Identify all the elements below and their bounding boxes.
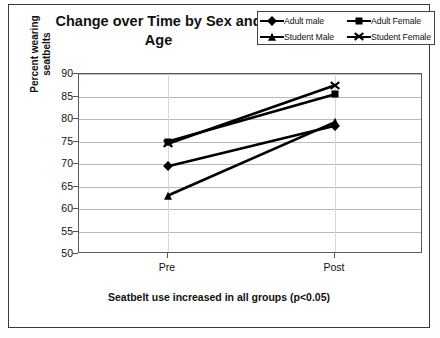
triangle-marker-icon: [164, 191, 172, 199]
legend-label-student-male: Student Male: [284, 32, 334, 42]
y-axis-tick-label: 55: [51, 225, 73, 237]
legend-row-1: Adult male Adult Female: [260, 13, 434, 29]
y-axis-tick-label: 60: [51, 202, 73, 214]
legend-label-adult-female: Adult Female: [371, 16, 421, 26]
chart-caption-text: Seatbelt use increased in all groups (p<…: [108, 291, 330, 303]
legend-item-adult-male: Adult male: [260, 13, 347, 29]
triangle-marker-icon: [260, 30, 284, 44]
y-axis-tick-label: 50: [51, 247, 73, 259]
chart-title-text: Change over Time by Sex and Age: [55, 13, 261, 48]
y-axis-tick-label: 80: [51, 112, 73, 124]
series-lines: [79, 74, 423, 254]
triangle-marker-icon: [331, 118, 339, 126]
x-axis-tick: [334, 253, 335, 258]
legend-label-adult-male: Adult male: [284, 16, 324, 26]
legend-item-student-male: Student Male: [260, 29, 347, 45]
x-marker-icon: [347, 30, 371, 44]
x-axis-tick: [167, 253, 168, 258]
series-line: [168, 85, 335, 144]
chart-caption: Seatbelt use increased in all groups (p<…: [9, 291, 429, 303]
legend-item-student-female: Student Female: [347, 29, 434, 45]
y-axis-tick-label: 65: [51, 180, 73, 192]
square-marker-icon: [347, 14, 371, 28]
x-axis-category-label: Pre: [159, 261, 175, 273]
y-axis-title: Percent wearing seatbelts: [29, 0, 53, 109]
chart-screenshot: Change over Time by Sex and Age Adult ma…: [0, 0, 440, 338]
y-axis-tick-label: 85: [51, 90, 73, 102]
x-axis-category-label: Post: [323, 261, 344, 273]
legend-row-2: Student Male Student Female: [260, 29, 434, 45]
x-marker-icon: [163, 138, 174, 149]
legend-label-student-female: Student Female: [371, 32, 431, 42]
chart-title: Change over Time by Sex and Age: [51, 12, 266, 50]
y-axis-tick-label: 90: [51, 67, 73, 79]
plot-area: [78, 73, 422, 253]
y-axis-tick-label: 70: [51, 157, 73, 169]
square-marker-icon: [332, 91, 339, 98]
diamond-marker-icon: [260, 14, 284, 28]
legend-item-adult-female: Adult Female: [347, 13, 434, 29]
chart-frame: Change over Time by Sex and Age Adult ma…: [8, 4, 430, 328]
y-axis-title-line1: Percent wearing: [29, 0, 41, 109]
chart-legend: Adult male Adult Female Student Male: [257, 11, 435, 45]
y-axis-tick-label: 75: [51, 135, 73, 147]
x-marker-icon: [330, 80, 341, 91]
y-axis-tick: [73, 253, 78, 254]
